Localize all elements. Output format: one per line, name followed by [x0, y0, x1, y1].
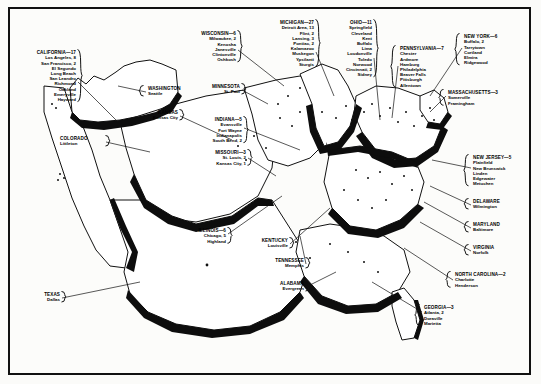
callout-newyork: NEW YORK—6Buffalo, 2TarrytownCortlandElm… [464, 34, 514, 65]
callout-city: Marietta [424, 321, 472, 326]
callout-kentucky: KENTUCKYLouisville [242, 238, 288, 249]
callout-kansas: KANSASKansas City [132, 110, 178, 121]
callout-michigan: MICHIGAN—27Detroit Area, 13Flint, 2Lansi… [258, 20, 314, 67]
callout-bracket [455, 34, 460, 65]
callout-indiana: INDIANA—5EvansvilleFort WayneIndianapoli… [196, 117, 242, 143]
callout-bracket [238, 31, 243, 62]
callout-massachusetts: MASSACHUSETTS—3SomervilleFramingham [448, 90, 506, 106]
callout-bracket [464, 245, 469, 256]
callout-city: Kansas City, 1 [200, 161, 246, 166]
callout-city: Sidney [324, 72, 372, 77]
callout-washington: WASHINGTONSeattle [148, 86, 192, 97]
callout-minnesota: MINNESOTASt. Paul [196, 84, 240, 95]
callout-city: Henderson [455, 283, 517, 288]
callout-wisconsin: WISCONSIN—6Milwaukee, 2KenoshaJanesville… [186, 31, 236, 62]
callout-illinois: ILLINOIS—6Chicago, 5Highland [180, 228, 226, 244]
callout-city: South Bend, 2 [196, 138, 242, 143]
callout-maryland: MARYLANDBaltimore [473, 222, 517, 233]
callout-missouri: MISSOURI—3St. Louis, 2Kansas City, 1 [200, 150, 246, 166]
callout-city: Wilmington [473, 204, 517, 209]
callout-pennsylvania: PENNSYLVANIA—7ChesterArdmoreHamburgPhila… [400, 46, 454, 88]
callout-bracket [464, 222, 469, 233]
callout-city: Ridgewood [464, 60, 514, 65]
callout-city: Framingham [448, 101, 506, 106]
callout-city: Sturgis [258, 62, 314, 67]
callout-bracket [464, 155, 469, 186]
leader-line-maryland [424, 202, 471, 228]
callout-virginia: VIRGINIANorfolk [473, 245, 517, 256]
callout-bracket [374, 20, 379, 77]
callout-city: Dallas [18, 297, 60, 302]
callout-alabama: ALABAMAEvergreen [258, 281, 304, 292]
callout-bracket [106, 136, 111, 147]
callout-city: Evergreen [258, 286, 304, 291]
callout-delaware: DELAWAREWilmington [473, 199, 517, 210]
callout-city: Seattle [148, 91, 192, 96]
callout-city: Metuchen [473, 181, 525, 186]
callout-city: Baltimore [473, 227, 517, 232]
callout-newjersey: NEW JERSEY—5PlainfieldNew BrunswickLinde… [473, 155, 525, 186]
callout-colorado: COLORADOLittleton [60, 136, 104, 147]
callout-city: Louisville [242, 243, 288, 248]
callout-city: Littleton [60, 141, 104, 146]
callout-tennessee: TENNESSEEMemphis [258, 258, 304, 269]
leader-line-virginia [420, 222, 471, 251]
callout-city: Memphis [258, 263, 304, 268]
callout-california: CALIFORNIA—17Los Angeles, 8San Francisco… [18, 50, 76, 102]
map-figure: CALIFORNIA—17Los Angeles, 8San Francisco… [0, 0, 541, 384]
callout-city: Highland [180, 239, 226, 244]
callout-city: Allentown [400, 83, 454, 88]
callout-georgia: GEORGIA—3Atlanta, 2DoravilleMarietta [424, 305, 472, 326]
callout-city: Oshkosh [186, 57, 236, 62]
callout-texas: TEXASDallas [18, 292, 60, 303]
callout-ohio: OHIO—11SpringfieldClevelandKentBuffaloLi… [324, 20, 372, 77]
callout-bracket [391, 46, 396, 88]
callout-bracket [62, 292, 67, 303]
callout-city: Norfolk [473, 250, 517, 255]
callout-bracket [316, 20, 321, 67]
callout-city: Hayward [18, 97, 76, 102]
callout-bracket [446, 272, 451, 288]
callout-city: St. Paul [196, 89, 240, 94]
callout-northcarolina: NORTH CAROLINA—2CharlotteHenderson [455, 272, 517, 288]
callout-city: Kansas City [132, 115, 178, 120]
leader-line-delaware [430, 186, 471, 205]
leader-line-northcarolina [404, 248, 453, 280]
